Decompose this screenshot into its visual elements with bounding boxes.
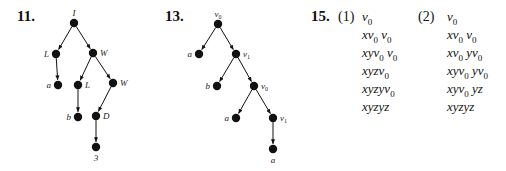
derivation-step: xv0 v0 [447, 27, 477, 45]
edge-arrow [76, 27, 90, 49]
edge-arrow [80, 57, 91, 80]
tree-13: v0av1bv0av1a [188, 9, 288, 165]
edge-arrow [95, 56, 110, 78]
derivation-step: v0 [447, 9, 457, 27]
edge-arrow [239, 90, 252, 114]
part-label-2: (2) [418, 9, 434, 25]
node-label: L [43, 49, 49, 59]
edge-arrow [98, 87, 111, 112]
tree-node [70, 19, 78, 27]
tree-node [89, 49, 97, 57]
node-label: 3 [93, 153, 99, 163]
edge-arrow [238, 58, 251, 82]
tree-node [74, 81, 82, 89]
node-label: v1 [243, 49, 250, 60]
node-label: D [102, 111, 110, 121]
edge-arrow [220, 28, 233, 50]
node-label: v0 [215, 9, 222, 20]
tree-node [92, 112, 100, 120]
node-label: W [120, 78, 129, 88]
node-label: a [271, 155, 276, 165]
node-label: W [100, 48, 109, 58]
edge-arrow [202, 28, 216, 50]
node-label: L [84, 80, 90, 90]
derivation-step: xyzyz [362, 99, 389, 115]
edge-arrow [220, 58, 234, 82]
tree-node [109, 79, 117, 87]
derivation-step: xyv0 yv0 [447, 63, 488, 81]
tree-node [195, 50, 203, 58]
node-label: a [47, 80, 52, 90]
node-label: v0 [261, 81, 268, 92]
node-label: a [188, 49, 193, 59]
tree-node [232, 50, 240, 58]
tree-node [269, 114, 277, 122]
derivation-step: xyzv0 [362, 63, 389, 81]
derivation-step: xv0 yv0 [447, 45, 482, 63]
tree-diagrams: ILWaLWbD3 v0av1bv0av1a [0, 0, 506, 171]
node-label: a [225, 113, 230, 123]
tree-11: ILWaLWbD3 [43, 8, 129, 163]
derivation-step: v0 [362, 9, 372, 27]
part-label-1: (1) [338, 9, 354, 25]
tree-node [52, 50, 60, 58]
derivation-step: xv0 v0 [362, 27, 392, 45]
tree-node [214, 20, 222, 28]
derivation-step: xyv0 yz [447, 81, 483, 99]
node-label: v1 [280, 113, 287, 124]
tree-node [74, 113, 82, 121]
tree-node [213, 82, 221, 90]
tree-node [250, 82, 258, 90]
tree-node [269, 145, 277, 153]
edge-arrow [256, 90, 270, 114]
derivation-step: xyzyv0 [362, 81, 395, 99]
node-label: I [72, 8, 77, 18]
edge-arrow [59, 27, 72, 50]
tree-node [232, 114, 240, 122]
tree-node [92, 143, 100, 151]
derivation-step: xyzyz [447, 99, 474, 115]
edge-arrow [56, 58, 57, 80]
node-label: b [67, 112, 72, 122]
tree-node [54, 81, 62, 89]
node-label: b [206, 81, 211, 91]
derivation-step: xyv0 v0 [362, 45, 397, 63]
